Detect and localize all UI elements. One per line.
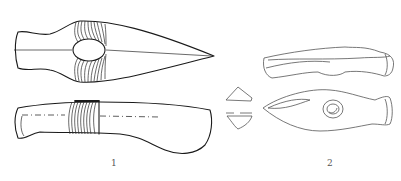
artifact-2-top-view [263, 90, 392, 131]
figure-label-2: 2 [327, 158, 333, 168]
artifact-drawing [0, 0, 401, 181]
figure-label-1: 1 [111, 158, 117, 168]
artifact-2-cross-sections [226, 87, 252, 129]
artifact-2-side-view [263, 47, 393, 78]
artifact-1-side-view [15, 101, 212, 153]
artifact-1-top-view [14, 21, 214, 82]
